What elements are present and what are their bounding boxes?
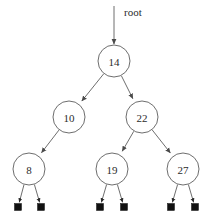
tree-node-label: 8 [26,164,32,176]
null-leaf-square [168,204,175,211]
null-edge-group [19,185,193,203]
null-leaf-square [121,204,128,211]
tree-node-label: 19 [107,164,119,176]
tree-edge [122,131,134,151]
tree-edge [121,76,132,99]
tree-node-label: 22 [137,112,148,124]
null-pointer-edge [101,185,106,203]
null-leaf-square [38,204,45,211]
null-leaf-square [192,204,199,211]
null-pointer-edge [172,185,177,203]
tree-edge [152,130,170,153]
null-node-group [15,204,199,211]
null-leaf-square [15,204,22,211]
null-pointer-edge [117,185,122,203]
tree-diagram: root 14102281927 [0,0,214,219]
tree-node-label: 10 [64,112,76,124]
null-pointer-edge [188,185,193,203]
tree-node-label: 27 [178,164,190,176]
tree-node-label: 14 [109,56,121,68]
root-label: root [124,6,142,18]
null-pointer-edge [34,185,39,203]
bst-figure: root 14102281927 [0,0,214,219]
tree-edge [42,130,59,153]
null-leaf-square [97,204,104,211]
node-group: 14102281927 [13,45,199,185]
null-pointer-edge [19,185,24,203]
root-pointer: root [114,6,142,44]
tree-edge [82,74,104,101]
